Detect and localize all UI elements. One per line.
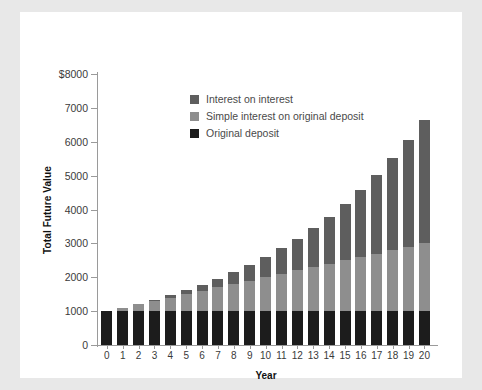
bar-segment bbox=[403, 247, 414, 311]
bar-segment bbox=[212, 279, 223, 287]
bar-segment bbox=[165, 311, 176, 345]
bar-segment bbox=[133, 304, 144, 311]
legend-label: Interest on interest bbox=[206, 94, 293, 105]
x-tick-label: 0 bbox=[104, 351, 110, 361]
x-tick bbox=[139, 345, 140, 349]
bar-column bbox=[371, 175, 382, 345]
x-tick-label: 6 bbox=[199, 351, 205, 361]
bar-column bbox=[276, 248, 287, 345]
bar-segment bbox=[403, 311, 414, 345]
x-tick bbox=[107, 345, 108, 349]
y-tick-label: 7000 bbox=[65, 103, 88, 114]
bar-column bbox=[387, 158, 398, 345]
x-tick bbox=[424, 345, 425, 349]
x-axis-line bbox=[97, 345, 438, 346]
x-tick-label: 9 bbox=[247, 351, 253, 361]
x-tick bbox=[170, 345, 171, 349]
bar-column bbox=[101, 311, 112, 345]
x-tick bbox=[202, 345, 203, 349]
x-tick bbox=[218, 345, 219, 349]
x-tick-label: 20 bbox=[419, 351, 430, 361]
x-tick bbox=[393, 345, 394, 349]
x-tick-label: 10 bbox=[260, 351, 271, 361]
x-tick bbox=[234, 345, 235, 349]
x-tick-label: 16 bbox=[355, 351, 366, 361]
chart-page: Total Future Value 010002000300040005000… bbox=[0, 0, 482, 390]
bar-segment bbox=[324, 217, 335, 264]
y-tick-label: $8000 bbox=[59, 69, 88, 80]
y-tick-label: 3000 bbox=[65, 238, 88, 249]
bar-segment bbox=[276, 248, 287, 274]
bar-column bbox=[149, 300, 160, 345]
y-tick-label: 2000 bbox=[65, 272, 88, 283]
bar-column bbox=[324, 217, 335, 345]
bar-segment bbox=[117, 311, 128, 345]
x-tick-label: 5 bbox=[183, 351, 189, 361]
legend-label: Original deposit bbox=[206, 128, 279, 139]
bar-segment bbox=[308, 311, 319, 345]
x-tick-label: 17 bbox=[371, 351, 382, 361]
x-tick-label: 2 bbox=[136, 351, 142, 361]
bar-segment bbox=[308, 267, 319, 311]
x-tick bbox=[186, 345, 187, 349]
bar-segment bbox=[324, 311, 335, 345]
bar-column bbox=[419, 120, 430, 345]
bar-segment bbox=[260, 311, 271, 345]
bar-segment bbox=[101, 311, 112, 345]
x-tick bbox=[377, 345, 378, 349]
bar-segment bbox=[387, 158, 398, 250]
bar-segment bbox=[149, 311, 160, 345]
x-tick-label: 12 bbox=[292, 351, 303, 361]
x-axis-title: Year bbox=[255, 370, 276, 381]
y-tick-label: 1000 bbox=[65, 306, 88, 317]
bar-segment bbox=[308, 228, 319, 267]
legend-swatch-icon bbox=[190, 129, 199, 138]
chart-card: Total Future Value 010002000300040005000… bbox=[20, 12, 462, 378]
legend-item[interactable]: Original deposit bbox=[190, 126, 364, 141]
y-tick-label: 6000 bbox=[65, 137, 88, 148]
bar-column bbox=[133, 304, 144, 345]
bar-segment bbox=[197, 291, 208, 311]
bar-segment bbox=[371, 254, 382, 312]
x-tick bbox=[409, 345, 410, 349]
bar-segment bbox=[340, 311, 351, 345]
x-tick bbox=[361, 345, 362, 349]
bar-segment bbox=[371, 175, 382, 254]
bar-column bbox=[197, 285, 208, 345]
bar-segment bbox=[149, 301, 160, 311]
x-tick bbox=[329, 345, 330, 349]
x-tick bbox=[250, 345, 251, 349]
bar-segment bbox=[228, 272, 239, 284]
bar-column bbox=[308, 228, 319, 345]
bar-segment bbox=[228, 311, 239, 345]
x-tick bbox=[345, 345, 346, 349]
bar-segment bbox=[260, 257, 271, 277]
bar-segment bbox=[419, 120, 430, 243]
legend-item[interactable]: Simple interest on original deposit bbox=[190, 109, 364, 124]
bar-segment bbox=[181, 294, 192, 311]
legend-item[interactable]: Interest on interest bbox=[190, 92, 364, 107]
bar-segment bbox=[355, 257, 366, 311]
bar-segment bbox=[419, 311, 430, 345]
bar-segment bbox=[212, 311, 223, 345]
legend-label: Simple interest on original deposit bbox=[206, 111, 364, 122]
bar-segment bbox=[244, 311, 255, 345]
x-tick bbox=[266, 345, 267, 349]
bar-segment bbox=[387, 311, 398, 345]
bar-column bbox=[228, 272, 239, 345]
legend-swatch-icon bbox=[190, 95, 199, 104]
bar-segment bbox=[181, 311, 192, 345]
x-tick-label: 14 bbox=[324, 351, 335, 361]
x-tick bbox=[313, 345, 314, 349]
chart-legend: Interest on interestSimple interest on o… bbox=[190, 92, 364, 143]
x-tick-label: 19 bbox=[403, 351, 414, 361]
bar-segment bbox=[276, 274, 287, 311]
bar-segment bbox=[228, 284, 239, 311]
bar-segment bbox=[355, 311, 366, 345]
bar-segment bbox=[212, 287, 223, 311]
bar-column bbox=[355, 190, 366, 345]
x-tick-label: 7 bbox=[215, 351, 221, 361]
x-tick-label: 18 bbox=[387, 351, 398, 361]
x-tick-label: 8 bbox=[231, 351, 237, 361]
y-tick-label: 5000 bbox=[65, 170, 88, 181]
